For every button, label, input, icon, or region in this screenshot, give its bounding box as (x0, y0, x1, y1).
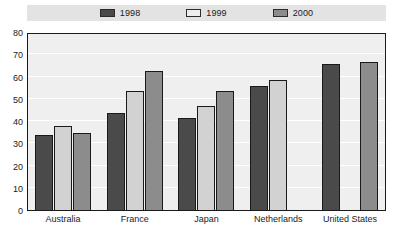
legend-label-1998: 1998 (120, 9, 140, 18)
bar-australia-1998 (35, 135, 53, 211)
bar-united-states-2000 (360, 62, 378, 211)
bar-netherlands-1999 (269, 80, 287, 211)
x-axis-labels: AustraliaFranceJapanNetherlandsUnited St… (27, 215, 386, 229)
y-axis-tick-label: 0 (0, 207, 23, 216)
legend-swatch-1998-icon (100, 9, 115, 17)
y-axis-tick-label: 80 (0, 29, 23, 38)
bar-france-1999 (126, 91, 144, 211)
bar-united-states-1998 (322, 64, 340, 211)
bar-group-netherlands (242, 33, 314, 211)
bar-australia-1999 (54, 126, 72, 211)
y-axis-tick-label: 20 (0, 162, 23, 171)
legend-label-2000: 2000 (293, 9, 313, 18)
bars-layer (27, 33, 386, 211)
bar-group-japan (171, 33, 243, 211)
y-axis-tick-label: 60 (0, 73, 23, 82)
x-axis-label-japan: Japan (194, 215, 219, 224)
legend-item-2000: 2000 (273, 9, 313, 18)
y-axis-tick-label: 70 (0, 51, 23, 60)
bar-france-2000 (145, 71, 163, 211)
bar-group-france (99, 33, 171, 211)
bar-group-australia (27, 33, 99, 211)
y-axis-tick-label: 40 (0, 118, 23, 127)
legend-item-1999: 1999 (186, 9, 226, 18)
bar-australia-2000 (73, 133, 91, 211)
bar-chart: 1998 1999 2000 01020304050607080 Austral… (0, 0, 411, 239)
x-axis-label-netherlands: Netherlands (254, 215, 303, 224)
y-axis-tick-label: 30 (0, 140, 23, 149)
y-axis: 01020304050607080 (0, 33, 23, 211)
y-axis-tick-label: 50 (0, 95, 23, 104)
bar-group-united-states (314, 33, 386, 211)
bar-japan-1999 (197, 106, 215, 211)
bar-france-1998 (107, 113, 125, 211)
legend-label-1999: 1999 (206, 9, 226, 18)
legend-swatch-2000-icon (273, 9, 288, 17)
bar-japan-1998 (178, 118, 196, 211)
x-axis-label-united-states: United States (323, 215, 377, 224)
x-axis-label-australia: Australia (45, 215, 80, 224)
legend-item-1998: 1998 (100, 9, 140, 18)
y-axis-tick-label: 10 (0, 184, 23, 193)
bar-japan-2000 (216, 91, 234, 211)
chart-legend: 1998 1999 2000 (27, 5, 386, 21)
bar-netherlands-1998 (250, 86, 268, 211)
x-axis-label-france: France (121, 215, 149, 224)
legend-swatch-1999-icon (186, 9, 201, 17)
